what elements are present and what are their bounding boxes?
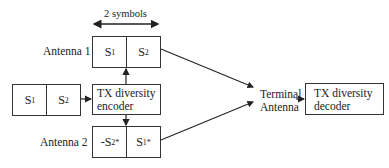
antenna2-cell-2: S1* [127,127,160,157]
antenna2-cell-1: -S2* [93,127,127,157]
encoder-label-line1: TX diversity [97,87,156,100]
decoder-label-line1: TX diversity [314,87,375,100]
terminal-antenna-label: Terminal Antenna [260,88,301,114]
input-symbol-block: S1 S2 [12,84,81,116]
symbols-duration-label: 2 symbols [104,7,147,20]
antenna1-symbol-block: S1 S2 [92,36,161,68]
antenna1-cell-1: S1 [93,37,127,67]
terminal-label-line1: Terminal [260,88,301,101]
input-cell-2: S2 [47,85,80,115]
encoder-label-line2: encoder [97,100,156,113]
antenna1-cell-2: S2 [127,37,160,67]
tx-diversity-decoder-block: TX diversity decoder [305,83,384,115]
antenna2-symbol-block: -S2* S1* [92,126,161,158]
antenna2-label: Antenna 2 [40,136,88,149]
antenna1-label: Antenna 1 [43,45,91,58]
input-cell-1: S1 [13,85,47,115]
terminal-label-line2: Antenna [260,101,301,114]
decoder-label-line2: decoder [314,100,375,113]
tx-diversity-encoder-block: TX diversity encoder [92,84,161,115]
